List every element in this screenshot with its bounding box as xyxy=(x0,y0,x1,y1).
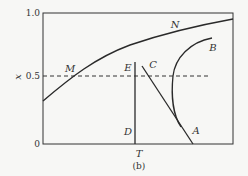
y-tick-0: 0 xyxy=(34,139,40,149)
label-a: A xyxy=(191,125,199,136)
label-m: M xyxy=(64,63,76,74)
y-axis-label: x xyxy=(12,74,23,80)
label-b: B xyxy=(208,42,216,53)
y-tick-1: 1.0 xyxy=(26,8,41,18)
phase-diagram: 1.0 0.5 0 x M N B C E D A T (b) xyxy=(0,0,248,176)
figure-caption: (b) xyxy=(133,161,146,171)
x-axis-label: T xyxy=(136,148,144,159)
label-d: D xyxy=(123,126,132,137)
label-n: N xyxy=(170,19,181,30)
y-tick-05: 0.5 xyxy=(26,71,41,81)
label-e: E xyxy=(123,62,132,73)
label-c: C xyxy=(149,59,157,70)
curve-mn xyxy=(43,19,233,101)
curve-ba xyxy=(172,38,212,127)
line-ca xyxy=(142,66,193,144)
